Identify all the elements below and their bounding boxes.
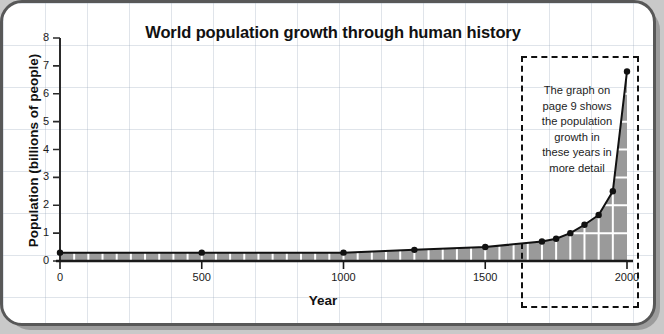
- x-tick-label: 500: [172, 271, 232, 283]
- data-point-marker: [340, 249, 346, 255]
- y-tick-label: 6: [27, 87, 49, 99]
- figure-frame: World population growth through human hi…: [0, 0, 656, 326]
- callout-line: more detail: [529, 161, 625, 177]
- data-point-marker: [482, 244, 488, 250]
- y-tick-label: 3: [27, 170, 49, 182]
- y-tick-label: 1: [27, 226, 49, 238]
- y-axis: [53, 38, 60, 261]
- y-tick-label: 7: [27, 59, 49, 71]
- callout-line: these years in: [529, 145, 625, 161]
- figure-root: World population growth through human hi…: [0, 0, 664, 334]
- callout-line: The graph on: [529, 83, 625, 99]
- callout-line: growth in: [529, 130, 625, 146]
- chart-title: World population growth through human hi…: [73, 23, 593, 42]
- y-tick-label: 2: [27, 198, 49, 210]
- y-tick-label: 5: [27, 115, 49, 127]
- callout-line: the population: [529, 114, 625, 130]
- x-tick-label: 1500: [455, 271, 515, 283]
- y-tick-label: 8: [27, 31, 49, 43]
- callout-line: page 9 shows: [529, 99, 625, 115]
- data-point-marker: [57, 249, 63, 255]
- data-point-marker: [411, 247, 417, 253]
- y-tick-label: 4: [27, 143, 49, 155]
- x-axis-title: Year: [253, 293, 393, 308]
- x-tick-label: 1000: [314, 271, 374, 283]
- x-tick-label: 0: [30, 271, 90, 283]
- y-tick-label: 0: [27, 254, 49, 266]
- callout-text: The graph onpage 9 showsthe populationgr…: [529, 83, 625, 176]
- data-point-marker: [199, 249, 205, 255]
